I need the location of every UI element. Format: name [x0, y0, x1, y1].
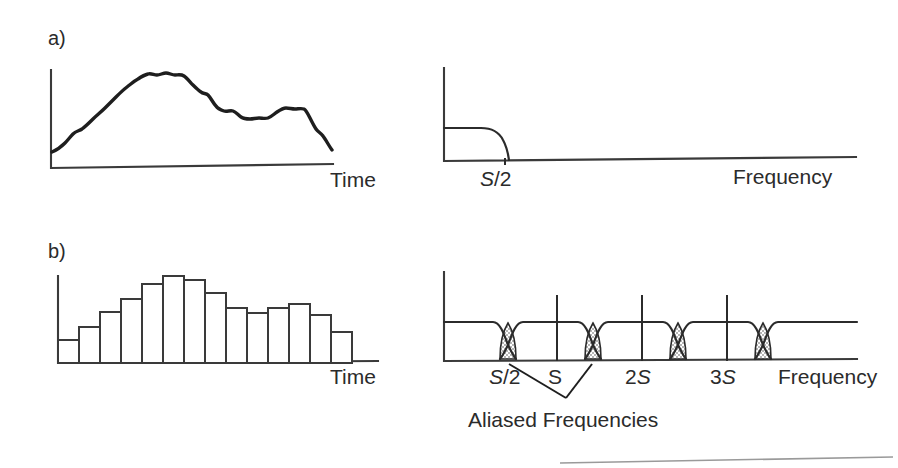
bar-10: [247, 313, 268, 363]
tick-label-half-s: S/2: [480, 167, 512, 190]
bar-2: [79, 327, 100, 363]
alias-lobes-group: [500, 323, 771, 359]
panel-a-frequency-domain: S/2 Frequency: [444, 68, 856, 190]
bar-12: [289, 304, 310, 363]
panel-a-label: a): [48, 27, 66, 49]
sampling-aliasing-figure: a) Time S/2 Frequency b): [0, 0, 898, 468]
bar-14: [331, 332, 352, 363]
analog-signal-curve: [52, 73, 332, 152]
panel-b-time-domain: b) Time: [48, 240, 378, 388]
panel-b-label: b): [48, 240, 66, 262]
panel-b-frequency-domain: S/2 S 2S 3S Frequency Aliased Frequencie…: [444, 272, 878, 431]
tick-label-s: S: [548, 365, 562, 388]
tick-label-two-s: 2S: [625, 365, 651, 388]
panel-a-time-domain: a) Time: [48, 27, 376, 191]
bar-5: [142, 284, 163, 363]
panel-a-frequency-axis-label: Frequency: [733, 165, 833, 188]
bar-11: [268, 308, 289, 363]
bar-6: [163, 276, 184, 363]
bar-9: [226, 308, 247, 363]
sampled-bars-group: [58, 276, 352, 363]
panel-b-frequency-axis-label: Frequency: [778, 365, 878, 388]
figure-canvas: a) Time S/2 Frequency b): [0, 0, 898, 468]
panel-b-time-axis-label: Time: [330, 365, 376, 388]
baseband-spectrum-curve: [444, 128, 509, 160]
bar-1: [58, 340, 79, 363]
scan-artifact-rule: [560, 457, 893, 463]
leader-line-to-lobe-2: [566, 364, 592, 398]
bar-4: [121, 299, 142, 363]
bar-7: [184, 280, 205, 363]
bar-8: [205, 293, 226, 363]
bar-3: [100, 312, 121, 363]
bar-13: [310, 315, 331, 363]
tick-label-three-s: 3S: [710, 365, 736, 388]
aliased-frequencies-label: Aliased Frequencies: [468, 408, 658, 431]
panel-a-time-axis-label: Time: [330, 168, 376, 191]
